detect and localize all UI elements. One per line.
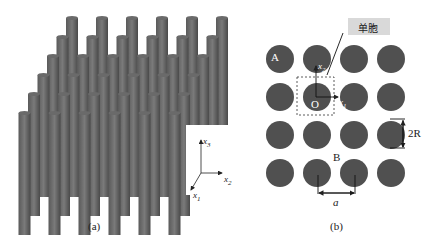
- fiber-circle: [303, 159, 331, 187]
- cylinder: [79, 113, 91, 235]
- diameter-label: 2R: [408, 127, 421, 139]
- x1-label-b: x1: [339, 97, 347, 110]
- x1-label-a: x1: [193, 190, 201, 203]
- origin-label: O: [311, 98, 319, 110]
- caption-b: (b): [330, 220, 343, 232]
- fiber-circle: [340, 45, 368, 73]
- diagram-canvas: [0, 0, 438, 242]
- figure: 单胞 A O B x2 x1 2R a (b) x3 x2 x1 (a): [0, 0, 438, 242]
- cylinder: [139, 113, 151, 235]
- x2-label-a: x2: [224, 174, 232, 187]
- x2-label-b: x2: [318, 61, 326, 74]
- cylinder: [19, 113, 31, 235]
- fiber-circle: [266, 159, 294, 187]
- caption-a: (a): [88, 220, 100, 232]
- fiber-circle: [303, 45, 331, 73]
- fiber-grid: [266, 45, 405, 187]
- fiber-circle: [377, 121, 405, 149]
- callout-label: 单胞: [358, 20, 378, 35]
- fiber-circle: [377, 45, 405, 73]
- fiber-circle: [377, 159, 405, 187]
- fiber-circle: [340, 121, 368, 149]
- fiber-circle: [266, 83, 294, 111]
- x3-label-a: x3: [203, 136, 211, 149]
- point-b-label: B: [333, 151, 340, 163]
- point-a-label: A: [271, 51, 279, 63]
- cylinder: [109, 113, 121, 235]
- fiber-circle: [266, 121, 294, 149]
- spacing-label: a: [333, 196, 339, 208]
- cylinder: [49, 113, 61, 235]
- cylinder: [169, 113, 181, 235]
- fiber-circle: [340, 159, 368, 187]
- fiber-circle: [303, 121, 331, 149]
- fiber-circle: [377, 83, 405, 111]
